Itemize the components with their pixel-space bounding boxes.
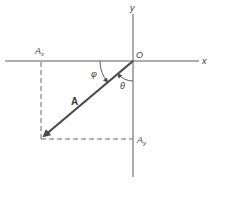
phi-angle-label: φ <box>91 69 97 79</box>
vector-component-diagram: x y O Ax Ay A φ θ <box>0 0 244 200</box>
theta-angle-label: θ <box>120 81 125 91</box>
vector-a-label: A <box>71 96 78 107</box>
y-component-label: Ay <box>136 135 147 146</box>
origin-label: O <box>136 50 143 60</box>
x-component-label: Ax <box>34 46 45 57</box>
vector-a <box>44 61 133 136</box>
y-axis-label: y <box>129 3 135 13</box>
theta-angle-arc <box>118 74 133 81</box>
phi-angle-arc <box>100 61 108 82</box>
x-axis-label: x <box>201 56 207 66</box>
